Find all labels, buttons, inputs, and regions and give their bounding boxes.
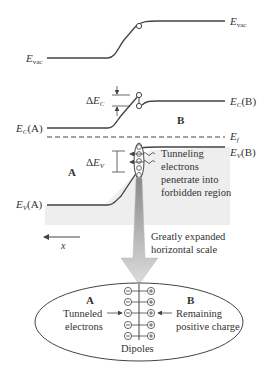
ec-a-label: EC(A) [15, 122, 43, 136]
band-diagram: Evac Evac ΔEC EC(B) B EC(A) Ef EV(B) ΔEV… [0, 0, 271, 374]
region-a-label: A [68, 166, 76, 178]
electron-icon [137, 145, 142, 150]
scale-note-line-1: Greatly expanded [151, 231, 226, 242]
inset-region-a-label: A [86, 294, 94, 306]
ec-b-label: EC(B) [229, 95, 256, 109]
inset-region-b-label: B [187, 294, 195, 306]
tunneling-note-line-3: penetrate into [161, 174, 218, 185]
tunneling-note-line-1: Tunneling [161, 148, 205, 159]
scale-note-line-2: horizontal scale [151, 244, 218, 255]
electron-icon [137, 166, 142, 171]
ec-notch-marker [136, 103, 141, 108]
evac-right-label: Evac [229, 15, 246, 29]
ev-a-label: EV(A) [15, 198, 43, 212]
remaining-charge-line-1: Remaining [176, 308, 223, 319]
tunneling-note-line-4: forbidden region [161, 187, 232, 198]
ec-b-line [142, 101, 225, 105]
tunneled-electrons-line-2: electrons [65, 321, 103, 332]
delta-ev-label: ΔEV [86, 156, 105, 170]
ev-b-label: EV(B) [229, 146, 256, 160]
dipoles-caption: Dipoles [121, 343, 154, 354]
ef-label: Ef [229, 130, 240, 144]
tunneled-electrons-line-1: Tunneled [63, 308, 103, 319]
remaining-charge-line-2: positive charge [176, 321, 240, 332]
evac-left-label: Evac [25, 52, 42, 66]
x-axis-label: x [60, 240, 66, 251]
electron-icon [137, 159, 142, 164]
evac-interface-marker [136, 23, 141, 28]
delta-ec-label: ΔEC [86, 94, 105, 108]
tunneling-note-line-2: electrons [161, 161, 199, 172]
electron-icon [137, 173, 142, 178]
region-b-label: B [177, 114, 185, 126]
ec-spike-top-marker [136, 92, 141, 97]
